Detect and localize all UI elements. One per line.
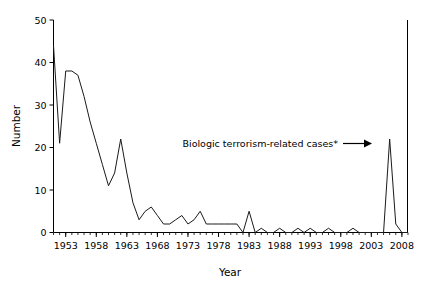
y-tick-label: 30 bbox=[34, 100, 46, 111]
x-tick-label: 1958 bbox=[84, 240, 108, 251]
annotation-label: Biologic terrorism-related cases* bbox=[183, 138, 339, 149]
x-tick-label: 1973 bbox=[176, 240, 200, 251]
annotation-arrow-head bbox=[364, 140, 372, 148]
y-tick-label: 0 bbox=[40, 227, 46, 238]
x-tick-label: 1978 bbox=[206, 240, 230, 251]
y-axis-title: Number bbox=[10, 104, 22, 147]
x-tick-label: 1998 bbox=[329, 240, 353, 251]
y-tick-label: 10 bbox=[34, 185, 46, 196]
x-tick-label: 1988 bbox=[268, 240, 292, 251]
x-axis-title: Year bbox=[218, 266, 242, 278]
y-tick-marks bbox=[50, 20, 54, 233]
line-chart: 01020304050 1953195819631968197319781983… bbox=[0, 0, 421, 290]
x-tick-labels: 1953195819631968197319781983198819931998… bbox=[54, 240, 414, 251]
y-tick-label: 40 bbox=[34, 57, 46, 68]
y-tick-label: 50 bbox=[34, 15, 46, 26]
x-tick-marks bbox=[66, 233, 402, 238]
x-tick-label: 1993 bbox=[298, 240, 322, 251]
y-tick-label: 20 bbox=[34, 142, 46, 153]
x-tick-label: 1983 bbox=[237, 240, 261, 251]
chart-container: 01020304050 1953195819631968197319781983… bbox=[0, 0, 421, 290]
x-tick-label: 1968 bbox=[145, 240, 169, 251]
x-tick-label: 1953 bbox=[54, 240, 78, 251]
x-tick-label: 1963 bbox=[115, 240, 139, 251]
x-tick-label: 2003 bbox=[359, 240, 383, 251]
x-tick-label: 2008 bbox=[390, 240, 414, 251]
y-tick-labels: 01020304050 bbox=[34, 15, 46, 239]
